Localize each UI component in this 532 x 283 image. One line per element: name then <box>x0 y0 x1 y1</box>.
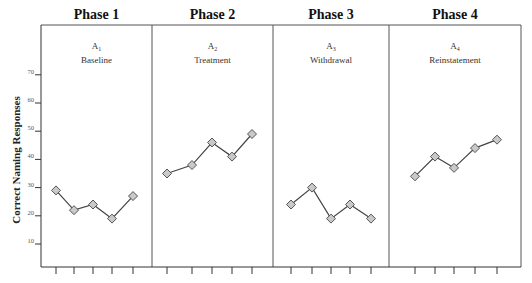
phase-condition-label: Withdrawal <box>310 55 353 65</box>
phase-line-chart: Phase 1A1BaselinePhase 2A2TreatmentPhase… <box>0 0 532 283</box>
phase-condition-label: Treatment <box>194 55 231 65</box>
phase-code: A4 <box>450 41 460 52</box>
phase-titles: Phase 1A1BaselinePhase 2A2TreatmentPhase… <box>74 7 481 65</box>
y-tick-label: 50 <box>28 124 35 131</box>
phase-condition-label: Reinstatement <box>429 55 481 65</box>
phase-title: Phase 2 <box>190 7 236 22</box>
y-tick-label: 20 <box>28 209 35 216</box>
data-series <box>52 130 502 224</box>
y-tick-label: 70 <box>28 68 35 75</box>
phase-code: A1 <box>92 41 102 52</box>
phase-condition-label: Baseline <box>81 55 112 65</box>
data-point-diamond-icon <box>163 169 172 178</box>
phase-title: Phase 3 <box>308 7 354 22</box>
data-point-diamond-icon <box>367 214 376 223</box>
y-axis: 10203040506070 <box>28 25 42 267</box>
phase-title: Phase 4 <box>432 7 478 22</box>
phase-code: A3 <box>326 41 336 52</box>
data-point-diamond-icon <box>327 214 336 223</box>
y-tick-label: 30 <box>28 181 35 188</box>
phase-title: Phase 1 <box>74 7 120 22</box>
data-point-diamond-icon <box>493 135 502 144</box>
phase-code: A2 <box>208 41 218 52</box>
data-point-diamond-icon <box>346 200 355 209</box>
y-tick-label: 10 <box>28 237 35 244</box>
y-axis-label: Correct Naming Responses <box>10 96 22 224</box>
x-axis <box>41 267 521 274</box>
y-tick-label: 40 <box>28 152 35 159</box>
data-point-diamond-icon <box>89 200 98 209</box>
y-tick-label: 60 <box>28 96 35 103</box>
